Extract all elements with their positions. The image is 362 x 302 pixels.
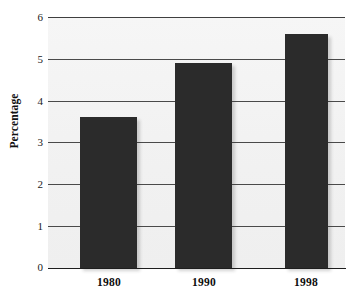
bar-1980[interactable]	[80, 117, 137, 268]
bar-1998[interactable]	[285, 34, 328, 268]
y-tick-4: 4	[3, 96, 43, 107]
x-axis-line	[48, 268, 346, 270]
y-tick-6: 6	[3, 12, 43, 23]
y-axis-tick-labels: 6 5 4 3 2 1 0	[0, 0, 43, 302]
gridline-6	[48, 17, 345, 18]
bar-1990[interactable]	[175, 63, 232, 268]
y-tick-5: 5	[3, 54, 43, 65]
x-tick-1998: 1998	[275, 276, 337, 289]
bar-chart: Percentage 6 5 4 3 2 1 0 1980 1990 1998	[0, 0, 362, 302]
x-tick-1980: 1980	[78, 276, 140, 289]
y-tick-2: 2	[3, 179, 43, 190]
plot-area	[48, 17, 345, 268]
y-tick-0: 0	[3, 262, 43, 273]
y-tick-3: 3	[3, 137, 43, 148]
y-tick-1: 1	[3, 221, 43, 232]
x-tick-1990: 1990	[173, 276, 235, 289]
